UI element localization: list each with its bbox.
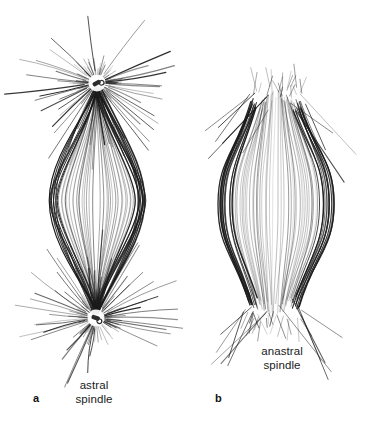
caption-astral-line1: astral — [44, 378, 144, 392]
panel-letter-b: b — [215, 392, 222, 404]
caption-astral-line2: spindle — [44, 392, 144, 406]
panel-astral-spindle — [0, 0, 183, 424]
caption-astral-spindle: astral spindle — [44, 378, 144, 406]
caption-anastral-spindle: anastral spindle — [232, 344, 332, 372]
caption-anastral-line1: anastral — [232, 344, 332, 358]
astral-spindle-drawing — [0, 0, 183, 424]
panel-letter-a: a — [33, 392, 39, 404]
caption-anastral-line2: spindle — [232, 358, 332, 372]
figure-root: astral spindle anastral spindle a b — [0, 0, 366, 424]
